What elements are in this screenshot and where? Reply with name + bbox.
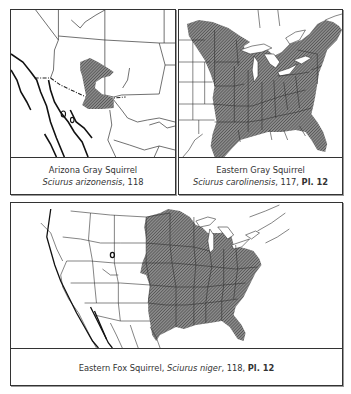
range-map-eastern-fox bbox=[11, 203, 342, 349]
range-area-eastern-gray bbox=[187, 20, 342, 157]
range-map-eastern-gray bbox=[179, 10, 342, 158]
range-area-eastern-fox bbox=[140, 209, 261, 341]
common-name: Eastern Fox Squirrel, bbox=[79, 363, 167, 373]
plate-reference: Pl. 12 bbox=[302, 177, 329, 187]
scientific-name: Sciurus carolinensis bbox=[193, 177, 275, 187]
map-caption: Eastern Fox Squirrel, Sciurus niger, 118… bbox=[11, 349, 342, 385]
common-name: Eastern Gray Squirrel bbox=[179, 164, 342, 176]
page-reference: , 118 bbox=[122, 177, 143, 187]
map-caption: Arizona Gray Squirrel Sciurus arizonensi… bbox=[11, 158, 175, 194]
map-caption: Eastern Gray Squirrel Sciurus carolinens… bbox=[179, 158, 342, 194]
range-map-panel-eastern-fox-squirrel: Eastern Fox Squirrel, Sciurus niger, 118… bbox=[10, 202, 343, 386]
page-reference: , 118, bbox=[221, 363, 247, 373]
page-reference: , 117, bbox=[275, 177, 301, 187]
scientific-name: Sciurus niger bbox=[167, 363, 221, 373]
range-map-panel-arizona-gray-squirrel: Arizona Gray Squirrel Sciurus arizonensi… bbox=[10, 9, 176, 195]
range-map-panel-eastern-gray-squirrel: Eastern Gray Squirrel Sciurus carolinens… bbox=[178, 9, 343, 195]
range-area-arizona bbox=[80, 58, 114, 109]
scientific-name: Sciurus arizonensis bbox=[43, 177, 123, 187]
common-name: Arizona Gray Squirrel bbox=[11, 164, 175, 176]
plate-reference: Pl. 12 bbox=[248, 363, 275, 373]
range-map-arizona bbox=[11, 10, 175, 158]
